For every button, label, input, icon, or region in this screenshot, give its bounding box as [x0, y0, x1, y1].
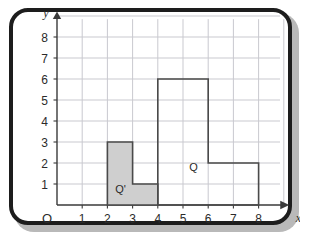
axes [53, 11, 290, 209]
shape-label-q-prime: Q' [115, 183, 126, 195]
y-tick-label: 4 [41, 115, 48, 129]
x-tick-label: 5 [180, 212, 187, 226]
y-tick-label: 3 [41, 136, 48, 150]
y-tick-label: 7 [41, 52, 48, 66]
y-tick-label: 8 [41, 31, 48, 45]
x-tick-label: 8 [255, 212, 262, 226]
plot-area: 1234567812345678Oxy Q'Q [9, 8, 300, 233]
x-tick-label: 1 [79, 212, 86, 226]
grid-lines [57, 16, 284, 205]
y-axis-label: y [42, 8, 49, 20]
origin-label: O [42, 211, 52, 226]
y-tick-label: 6 [41, 73, 48, 87]
shape-q-prime [107, 142, 157, 205]
shape-label-q: Q [189, 161, 198, 173]
figure-panel: 1234567812345678Oxy Q'Q [0, 0, 312, 242]
y-axis-arrow-icon [53, 11, 61, 19]
y-tick-label: 2 [41, 157, 48, 171]
y-tick-label: 1 [41, 178, 48, 192]
x-tick-label: 3 [129, 212, 136, 226]
tick-labels: 1234567812345678Oxy [41, 8, 300, 226]
coordinate-plane: 1234567812345678Oxy Q'Q [9, 8, 300, 233]
x-axis-arrow-icon [280, 201, 289, 209]
x-tick-label: 6 [205, 212, 212, 226]
x-axis-label: x [295, 211, 300, 225]
x-tick-label: 4 [154, 212, 161, 226]
y-tick-label: 5 [41, 94, 48, 108]
x-tick-label: 7 [230, 212, 237, 226]
x-tick-label: 2 [104, 212, 111, 226]
